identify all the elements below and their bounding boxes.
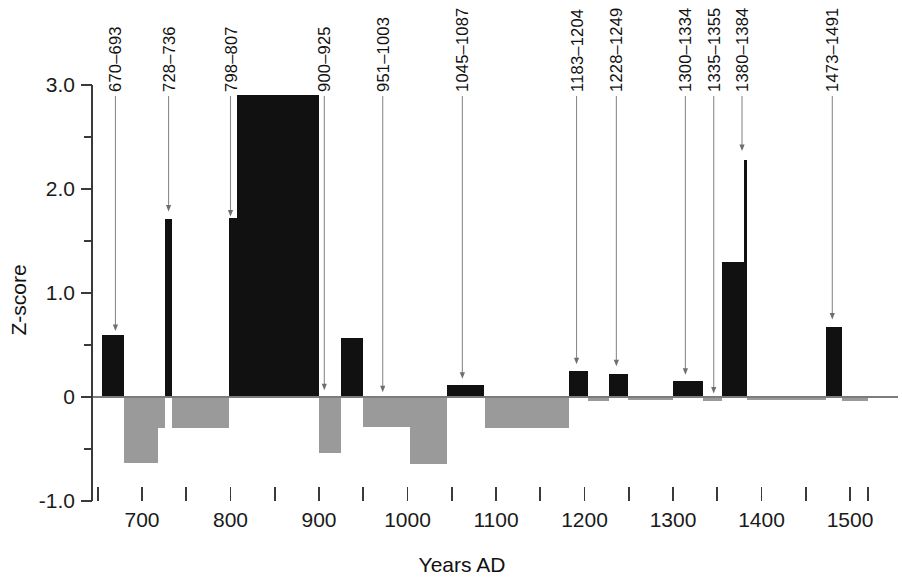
event-label-9: 1335–1355 [705, 8, 723, 92]
bar-seg-18 [703, 397, 722, 401]
leader-arrowhead-3 [322, 384, 327, 391]
bar-seg-15 [609, 374, 628, 397]
event-label-4: 951–1003 [374, 17, 392, 92]
event-label-6: 1183–1204 [568, 9, 586, 92]
leader-arrowhead-8 [683, 368, 688, 375]
leader-arrowhead-5 [460, 372, 465, 379]
bars-layer [102, 95, 868, 463]
event-label-7: 1228–1249 [607, 8, 625, 92]
leader-arrowhead-4 [380, 386, 385, 393]
event-label-8: 1300–1334 [676, 8, 694, 92]
y-tick-label-4: 3.0 [46, 73, 75, 96]
leader-arrowhead-10 [739, 145, 744, 152]
bar-seg-1 [124, 397, 158, 463]
bar-seg-22 [826, 327, 842, 397]
bar-seg-17 [673, 381, 703, 397]
leader-arrowhead-6 [574, 358, 579, 365]
leader-arrowhead-7 [614, 360, 619, 367]
bar-seg-9 [363, 397, 410, 427]
y-axis-layer: -1.001.02.03.0 [39, 73, 92, 512]
event-label-3: 900–925 [315, 26, 333, 92]
event-label-5: 1045–1087 [453, 8, 471, 92]
y-axis-title: Z-score [7, 264, 30, 335]
bar-seg-20 [744, 160, 748, 397]
bar-seg-12 [485, 397, 570, 428]
leader-arrowhead-2 [228, 210, 233, 217]
x-tick-label-5: 1200 [561, 508, 608, 531]
bar-seg-23 [842, 397, 868, 401]
zscore-bar-chart: 670–693728–736798–807900–925951–10031045… [0, 0, 902, 580]
bar-seg-19 [722, 262, 744, 397]
leader-arrowhead-1 [166, 205, 171, 212]
bar-seg-7 [319, 397, 341, 453]
bar-seg-6 [237, 95, 319, 397]
bar-seg-13 [569, 371, 588, 397]
event-label-11: 1473–1491 [823, 8, 841, 92]
event-label-2: 798–807 [222, 26, 240, 92]
x-tick-label-2: 900 [301, 508, 336, 531]
leader-arrowhead-9 [711, 387, 716, 394]
y-tick-label-3: 2.0 [46, 177, 75, 200]
x-tick-label-0: 700 [124, 508, 159, 531]
bar-seg-2 [158, 397, 165, 428]
x-axis-title: Years AD [419, 553, 506, 576]
x-tick-label-7: 1400 [738, 508, 785, 531]
x-tick-label-8: 1500 [827, 508, 874, 531]
bar-seg-11 [447, 385, 484, 397]
leader-arrowhead-0 [113, 324, 118, 331]
bar-seg-14 [588, 397, 609, 401]
leader-arrowhead-11 [830, 313, 835, 320]
x-tick-label-3: 1000 [384, 508, 431, 531]
event-label-1: 728–736 [160, 26, 178, 92]
chart-canvas: 670–693728–736798–807900–925951–10031045… [0, 0, 902, 580]
bar-seg-4 [172, 397, 229, 428]
bar-seg-5 [229, 218, 237, 397]
bar-seg-3 [165, 219, 172, 397]
x-tick-label-6: 1300 [650, 508, 697, 531]
y-tick-label-1: 0 [63, 385, 75, 408]
x-axis-layer: 700800900100011001200130014001500 [98, 487, 874, 531]
y-tick-label-0: -1.0 [39, 489, 75, 512]
x-tick-label-4: 1100 [473, 508, 518, 531]
bar-seg-0 [102, 335, 124, 397]
bar-seg-8 [341, 338, 363, 397]
annotation-labels-layer: 670–693728–736798–807900–925951–10031045… [106, 8, 841, 92]
x-tick-label-1: 800 [213, 508, 248, 531]
event-label-10: 1380–1384 [733, 8, 751, 92]
event-label-0: 670–693 [106, 26, 124, 92]
bar-seg-10 [410, 397, 447, 464]
y-tick-label-2: 1.0 [46, 281, 75, 304]
